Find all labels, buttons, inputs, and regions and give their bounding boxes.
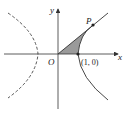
x-axis-label: x	[117, 52, 122, 62]
origin-label: O	[48, 57, 55, 67]
point-p	[91, 23, 94, 26]
point-p-label: P	[85, 16, 92, 26]
hyperbola-diagram: y x O P (1, 0)	[0, 0, 127, 113]
y-axis-label: y	[49, 5, 54, 15]
hyperbola-left-branch	[8, 13, 38, 98]
point-vertex	[76, 52, 79, 55]
vertex-label: (1, 0)	[81, 58, 99, 67]
ray-op	[58, 13, 108, 54]
